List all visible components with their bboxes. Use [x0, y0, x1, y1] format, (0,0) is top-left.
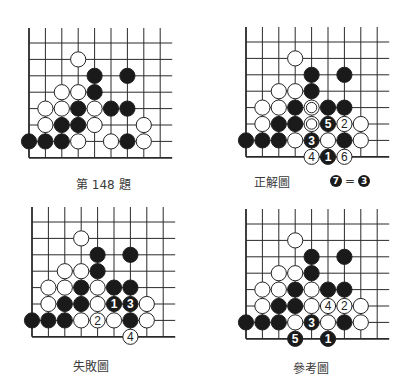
go-board-failure: 1324 — [18, 202, 177, 347]
svg-text:6: 6 — [341, 150, 348, 164]
white-stone — [74, 231, 89, 246]
white-stone — [304, 298, 319, 313]
white-stone — [304, 282, 319, 297]
black-stone-5: 5 — [288, 331, 303, 346]
white-stone — [353, 315, 368, 330]
white-stone — [106, 313, 121, 328]
svg-text:5: 5 — [292, 332, 299, 346]
white-stone — [90, 296, 105, 311]
white-stone — [136, 134, 151, 149]
white-stone — [57, 264, 72, 279]
black-stone — [255, 133, 270, 148]
black-stone — [123, 280, 138, 295]
svg-text:3: 3 — [308, 316, 315, 330]
black-stone — [71, 117, 86, 132]
white-stone — [38, 117, 53, 132]
black-stone — [238, 133, 253, 148]
svg-text:1: 1 — [325, 150, 332, 164]
white-stone-6: 6 — [337, 149, 352, 164]
black-stone — [123, 247, 138, 262]
black-stone — [120, 101, 135, 116]
black-stone — [54, 134, 69, 149]
white-stone — [87, 117, 102, 132]
white-stone — [71, 52, 86, 67]
caption-failure: 失敗圖 — [73, 357, 109, 374]
svg-text:4: 4 — [325, 299, 332, 313]
white-stone — [320, 133, 335, 148]
black-stone — [123, 313, 138, 328]
caption-problem: 第 148 題 — [76, 175, 131, 192]
black-stone — [337, 282, 352, 297]
black-stone — [54, 117, 69, 132]
white-stone-2: 2 — [90, 313, 105, 328]
white-stone — [71, 134, 86, 149]
white-stone-4: 4 — [304, 149, 319, 164]
black-stone — [71, 101, 86, 116]
white-stone — [255, 298, 270, 313]
white-stone — [288, 233, 303, 248]
white-stone — [54, 101, 69, 116]
black-stone — [57, 296, 72, 311]
svg-text:3: 3 — [308, 134, 315, 148]
svg-text:4: 4 — [308, 150, 315, 164]
white-stone — [320, 315, 335, 330]
white-stone-4: 4 — [123, 329, 138, 344]
white-stone — [353, 116, 368, 131]
black-stone — [304, 249, 319, 264]
white-stone — [271, 282, 286, 297]
black-stone-1: 1 — [320, 331, 335, 346]
black-stone — [90, 247, 105, 262]
black-stone — [320, 100, 335, 115]
white-stone — [87, 101, 102, 116]
black-stone — [337, 249, 352, 264]
svg-text:4: 4 — [127, 330, 134, 344]
black-stone — [337, 133, 352, 148]
white-stone — [54, 85, 69, 100]
white-stone — [255, 100, 270, 115]
svg-text:2: 2 — [341, 299, 348, 313]
go-board-correct-solution: 523416 — [232, 22, 391, 167]
white-stone — [71, 85, 86, 100]
white-stone — [255, 282, 270, 297]
black-stone — [24, 313, 39, 328]
white-stone — [41, 280, 56, 295]
black-stone — [41, 313, 56, 328]
black-stone — [255, 315, 270, 330]
white-stone — [74, 313, 89, 328]
black-stone — [87, 68, 102, 83]
black-stone — [120, 68, 135, 83]
white-stone — [271, 266, 286, 281]
black-stone — [288, 282, 303, 297]
white-stone — [74, 264, 89, 279]
white-stone — [353, 133, 368, 148]
black-stone-5: 5 — [320, 116, 335, 131]
white-stone — [288, 266, 303, 281]
black-stone — [238, 315, 253, 330]
white-stone — [41, 296, 56, 311]
black-stone — [288, 100, 303, 115]
white-stone — [139, 313, 154, 328]
equals-sign: = — [343, 174, 357, 188]
black-stone — [337, 67, 352, 82]
move-equivalence-note: 7 = 3 — [330, 174, 370, 188]
black-stone-3: 3 — [304, 315, 319, 330]
black-stone — [304, 84, 319, 99]
black-stone — [304, 67, 319, 82]
black-stone — [120, 134, 135, 149]
white-stone — [353, 298, 368, 313]
white-stone — [255, 116, 270, 131]
black-stone — [21, 134, 36, 149]
black-stone — [271, 315, 286, 330]
black-stone — [74, 296, 89, 311]
caption-reference: 參考圖 — [293, 359, 329, 376]
white-stone — [271, 84, 286, 99]
svg-text:2: 2 — [94, 314, 101, 328]
black-stone — [90, 264, 105, 279]
svg-text:5: 5 — [325, 117, 332, 131]
black-stone — [106, 280, 121, 295]
black-stone — [74, 280, 89, 295]
white-stone — [38, 101, 53, 116]
black-stone — [87, 85, 102, 100]
black-stone-1: 1 — [106, 296, 121, 311]
white-stone — [139, 296, 154, 311]
